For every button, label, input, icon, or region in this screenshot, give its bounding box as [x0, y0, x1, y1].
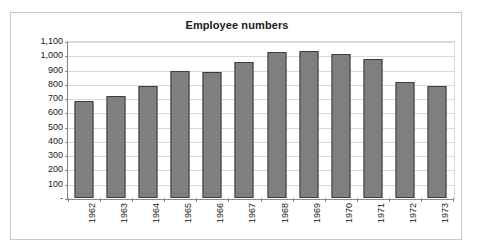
x-axis-tickmark — [164, 198, 165, 202]
x-axis-tick-slot: 1962 — [68, 203, 100, 239]
y-axis-tick-label: 600 — [13, 108, 63, 117]
bar[interactable] — [395, 82, 414, 198]
x-axis-tickmark — [325, 198, 326, 202]
bars-layer — [68, 41, 453, 198]
bar[interactable] — [331, 54, 350, 198]
x-axis-tick-label: 1964 — [152, 203, 161, 223]
bar[interactable] — [139, 86, 158, 198]
x-axis-tickmark — [389, 198, 390, 202]
x-axis-tick-label: 1971 — [377, 203, 386, 223]
y-axis-tick-label: 500 — [13, 123, 63, 132]
bar[interactable] — [171, 71, 190, 198]
x-axis-tick-slot: 1972 — [389, 203, 421, 239]
y-axis-labels: -1002003004005006007008009001,0001,100 — [11, 41, 63, 198]
bar[interactable] — [299, 51, 318, 198]
x-axis-tick-slot: 1973 — [421, 203, 453, 239]
x-axis-tickmark — [357, 198, 358, 202]
chart-title: Employee numbers — [11, 19, 463, 31]
bar-slot — [325, 41, 357, 198]
bar-slot — [100, 41, 132, 198]
y-axis-tick-label: 1,100 — [13, 37, 63, 46]
bar-slot — [357, 41, 389, 198]
x-axis-tickmark — [100, 198, 101, 202]
x-axis-tick-slot: 1966 — [196, 203, 228, 239]
x-axis-tick-slot: 1963 — [100, 203, 132, 239]
y-axis-tick-label: 700 — [13, 94, 63, 103]
x-axis-tick-label: 1965 — [184, 203, 193, 223]
x-axis-tickmarks — [68, 198, 453, 202]
x-axis-tick-label: 1968 — [281, 203, 290, 223]
x-axis-tick-slot: 1968 — [261, 203, 293, 239]
y-axis-tick-label: 300 — [13, 151, 63, 160]
bar[interactable] — [203, 72, 222, 198]
y-axis-tick-label: 400 — [13, 137, 63, 146]
x-axis-tick-slot: 1970 — [325, 203, 357, 239]
x-axis-tick-slot: 1964 — [132, 203, 164, 239]
y-axis-tick-label: 800 — [13, 80, 63, 89]
x-axis-tickmark — [293, 198, 294, 202]
bar-slot — [293, 41, 325, 198]
bar-slot — [68, 41, 100, 198]
bar[interactable] — [235, 62, 254, 198]
bar[interactable] — [107, 96, 126, 198]
x-axis-tick-slot: 1971 — [357, 203, 389, 239]
bar[interactable] — [75, 101, 94, 198]
bar-slot — [132, 41, 164, 198]
x-axis-tick-label: 1963 — [120, 203, 129, 223]
x-axis-tick-slot: 1967 — [228, 203, 260, 239]
bar-slot — [389, 41, 421, 198]
x-axis-tick-label: 1962 — [88, 203, 97, 223]
y-axis-tick-label: 900 — [13, 66, 63, 75]
x-axis-tick-label: 1970 — [345, 203, 354, 223]
x-axis-tickmark — [261, 198, 262, 202]
y-axis-tick-label: 200 — [13, 165, 63, 174]
x-axis-tick-slot: 1969 — [293, 203, 325, 239]
chart-frame: Employee numbers -1002003004005006007008… — [10, 12, 462, 240]
bar[interactable] — [427, 86, 446, 198]
x-axis-tickmark — [228, 198, 229, 202]
y-axis-tick-label: 100 — [13, 180, 63, 189]
x-axis-tickmark — [453, 198, 454, 202]
bar-slot — [261, 41, 293, 198]
y-axis-tick-label: - — [13, 194, 63, 203]
x-axis-tick-label: 1969 — [313, 203, 322, 223]
bar[interactable] — [363, 59, 382, 198]
x-axis-tick-label: 1966 — [216, 203, 225, 223]
bar-slot — [421, 41, 453, 198]
bar[interactable] — [267, 52, 286, 198]
bar-slot — [228, 41, 260, 198]
x-axis-tick-slot: 1965 — [164, 203, 196, 239]
x-axis-labels: 1962196319641965196619671968196919701971… — [68, 203, 453, 239]
x-axis-tickmark — [421, 198, 422, 202]
x-axis-tickmark — [132, 198, 133, 202]
x-axis-tickmark — [68, 198, 69, 202]
y-axis-tick-label: 1,000 — [13, 51, 63, 60]
x-axis-tickmark — [196, 198, 197, 202]
bar-slot — [196, 41, 228, 198]
bar-slot — [164, 41, 196, 198]
x-axis-tick-label: 1973 — [441, 203, 450, 223]
x-axis-tick-label: 1967 — [248, 203, 257, 223]
x-axis-tick-label: 1972 — [409, 203, 418, 223]
